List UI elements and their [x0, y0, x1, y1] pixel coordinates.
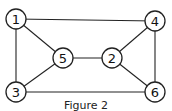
- node-label: 6: [151, 85, 159, 100]
- node-label: 2: [108, 51, 116, 66]
- node-1: 1: [6, 9, 26, 29]
- node-2: 2: [102, 48, 122, 68]
- figure-caption: Figure 2: [0, 99, 172, 111]
- node-label: 3: [12, 85, 20, 100]
- node-label: 5: [59, 51, 67, 66]
- node-4: 4: [145, 11, 165, 31]
- node-5: 5: [53, 48, 73, 68]
- node-label: 4: [151, 14, 159, 29]
- edge-1-4: [16, 19, 155, 21]
- node-label: 1: [12, 12, 20, 27]
- edges: [16, 19, 155, 92]
- graph-diagram: 1 4 5 2 3 6: [0, 0, 172, 111]
